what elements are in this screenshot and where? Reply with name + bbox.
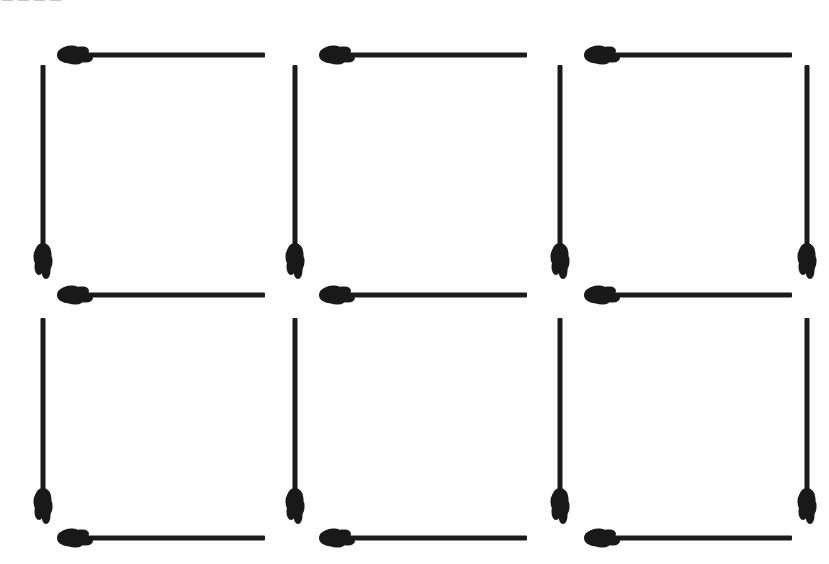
match-head-icon bbox=[287, 488, 304, 512]
match-stick bbox=[41, 318, 46, 508]
match-stick bbox=[558, 65, 563, 263]
match-vertical[interactable] bbox=[286, 65, 304, 263]
match-horizontal[interactable] bbox=[322, 529, 527, 547]
match-stick bbox=[60, 53, 265, 58]
match-horizontal[interactable] bbox=[587, 46, 792, 64]
match-stick bbox=[587, 536, 792, 541]
match-head-icon bbox=[584, 47, 608, 64]
match-head-icon bbox=[584, 287, 608, 304]
match-vertical[interactable] bbox=[34, 318, 52, 508]
matchstick-canvas: — — — — bbox=[0, 0, 829, 564]
match-vertical[interactable] bbox=[551, 318, 569, 508]
match-head-icon bbox=[57, 47, 81, 64]
match-horizontal[interactable] bbox=[60, 46, 265, 64]
match-horizontal[interactable] bbox=[60, 286, 265, 304]
match-stick bbox=[293, 318, 298, 508]
match-vertical[interactable] bbox=[798, 65, 816, 263]
match-head-icon bbox=[35, 243, 52, 267]
match-stick bbox=[60, 536, 265, 541]
top-cropped-caption: — — — — bbox=[2, 0, 62, 5]
match-head-icon bbox=[35, 488, 52, 512]
match-head-icon bbox=[552, 243, 569, 267]
match-horizontal[interactable] bbox=[60, 529, 265, 547]
match-head-icon bbox=[57, 287, 81, 304]
match-head-icon bbox=[584, 530, 608, 547]
match-head-icon bbox=[799, 488, 816, 512]
match-head-icon bbox=[57, 530, 81, 547]
match-horizontal[interactable] bbox=[587, 529, 792, 547]
match-stick bbox=[293, 65, 298, 263]
match-horizontal[interactable] bbox=[322, 46, 527, 64]
match-stick bbox=[322, 536, 527, 541]
match-stick bbox=[322, 293, 527, 298]
match-stick bbox=[805, 65, 810, 263]
match-head-icon bbox=[319, 287, 343, 304]
match-horizontal[interactable] bbox=[322, 286, 527, 304]
match-stick bbox=[41, 65, 46, 263]
match-head-icon bbox=[799, 243, 816, 267]
match-head-icon bbox=[552, 488, 569, 512]
match-vertical[interactable] bbox=[286, 318, 304, 508]
match-stick bbox=[60, 293, 265, 298]
match-horizontal[interactable] bbox=[587, 286, 792, 304]
match-vertical[interactable] bbox=[34, 65, 52, 263]
match-stick bbox=[558, 318, 563, 508]
match-head-icon bbox=[287, 243, 304, 267]
match-stick bbox=[805, 318, 810, 508]
match-head-icon bbox=[319, 47, 343, 64]
match-stick bbox=[587, 53, 792, 58]
match-head-icon bbox=[319, 530, 343, 547]
match-stick bbox=[322, 53, 527, 58]
match-stick bbox=[587, 293, 792, 298]
match-vertical[interactable] bbox=[798, 318, 816, 508]
match-vertical[interactable] bbox=[551, 65, 569, 263]
